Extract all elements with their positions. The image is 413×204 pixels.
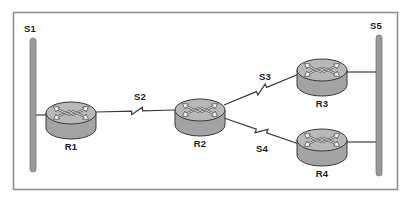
lan-segment-icon[interactable] <box>30 38 36 172</box>
router-icon[interactable] <box>175 99 225 136</box>
link-label-s4: S4 <box>256 143 268 154</box>
network-diagram: S1S5R1R2R3R4S2S3S4 <box>0 0 413 204</box>
router-label-r1: R1 <box>65 141 78 152</box>
router-label-r4: R4 <box>316 168 329 179</box>
link-label-s3: S3 <box>259 71 271 82</box>
lan-segment-icon[interactable] <box>376 35 382 176</box>
router-label-r2: R2 <box>194 138 206 149</box>
router-icon[interactable] <box>297 129 347 166</box>
segment-label-s1: S1 <box>24 23 36 34</box>
topology-canvas: S1S5R1R2R3R4S2S3S4 <box>0 0 413 204</box>
router-icon[interactable] <box>46 102 96 139</box>
link-label-s2: S2 <box>134 91 146 102</box>
router-icon[interactable] <box>297 59 347 96</box>
router-label-r3: R3 <box>316 98 328 109</box>
segment-label-s5: S5 <box>370 20 382 31</box>
